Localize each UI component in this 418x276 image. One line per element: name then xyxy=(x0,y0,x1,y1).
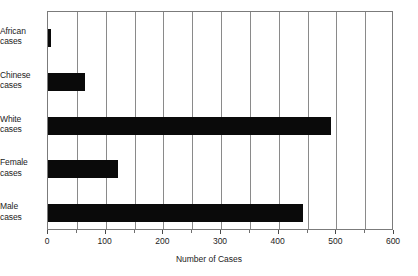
bar xyxy=(48,117,331,135)
x-tick-major xyxy=(220,230,221,234)
category-label-line: Male xyxy=(0,201,44,212)
category-label-line: cases xyxy=(0,168,44,179)
category-label: Femalecases xyxy=(0,157,44,178)
bar-row xyxy=(48,160,394,178)
bar-row xyxy=(48,117,394,135)
category-label-line: cases xyxy=(0,80,44,91)
x-tick-major xyxy=(278,230,279,234)
category-label: Whitecases xyxy=(0,114,44,135)
category-label-line: cases xyxy=(0,36,44,47)
x-tick-major xyxy=(47,230,48,234)
x-axis-title: Number of Cases xyxy=(0,254,418,264)
category-label: Malecases xyxy=(0,201,44,222)
bar xyxy=(48,160,118,178)
x-tick-major xyxy=(162,230,163,234)
category-label-line: cases xyxy=(0,124,44,135)
bar-row xyxy=(48,29,394,47)
category-label-line: Chinese xyxy=(0,70,44,81)
category-label-line: Female xyxy=(0,157,44,168)
plot-area xyxy=(47,11,393,230)
x-tick-minor xyxy=(191,230,192,233)
bar-row xyxy=(48,73,394,91)
x-tick-label: 300 xyxy=(213,236,227,246)
x-tick-major xyxy=(393,230,394,234)
bar xyxy=(48,204,303,222)
x-tick-label: 0 xyxy=(45,236,50,246)
x-tick-label: 100 xyxy=(98,236,112,246)
category-label-line: African xyxy=(0,26,44,37)
x-tick-minor xyxy=(249,230,250,233)
x-tick-label: 400 xyxy=(271,236,285,246)
x-tick-minor xyxy=(307,230,308,233)
x-tick-label: 600 xyxy=(386,236,400,246)
x-tick-minor xyxy=(364,230,365,233)
x-tick-minor xyxy=(76,230,77,233)
bar xyxy=(48,73,85,91)
x-tick-major xyxy=(335,230,336,234)
bar xyxy=(48,29,51,47)
category-label: Chinesecases xyxy=(0,70,44,91)
x-tick-major xyxy=(105,230,106,234)
bar-row xyxy=(48,204,394,222)
x-tick-minor xyxy=(134,230,135,233)
category-label: Africancases xyxy=(0,26,44,47)
x-tick-label: 200 xyxy=(155,236,169,246)
category-label-line: cases xyxy=(0,212,44,223)
x-tick-label: 500 xyxy=(328,236,342,246)
category-label-line: White xyxy=(0,114,44,125)
bar-chart: AfricancasesChinesecasesWhitecasesFemale… xyxy=(0,0,418,276)
